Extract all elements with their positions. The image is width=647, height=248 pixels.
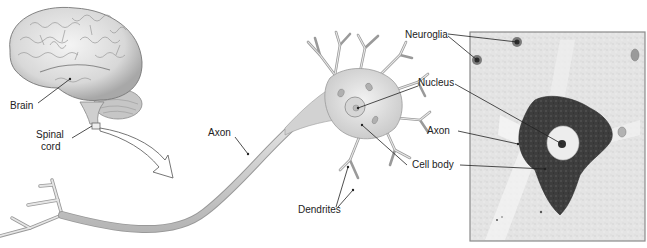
micrograph-photo — [470, 32, 645, 241]
neuron-diagram: Brain Spinal cord Axon Dendrites Neurogl… — [0, 0, 647, 248]
label-axon-micrograph: Axon — [427, 125, 450, 136]
magnify-arrow-icon — [100, 128, 173, 178]
label-brain: Brain — [10, 100, 33, 111]
label-spinal-cord-line1: Spinal — [36, 129, 64, 140]
label-cell-body: Cell body — [412, 159, 454, 170]
label-dendrites: Dendrites — [298, 204, 341, 215]
label-spinal-cord-line2: cord — [41, 141, 60, 152]
label-neuroglia: Neuroglia — [405, 29, 448, 40]
label-axon-illustration: Axon — [208, 127, 231, 138]
label-nucleus: Nucleus — [418, 77, 454, 88]
